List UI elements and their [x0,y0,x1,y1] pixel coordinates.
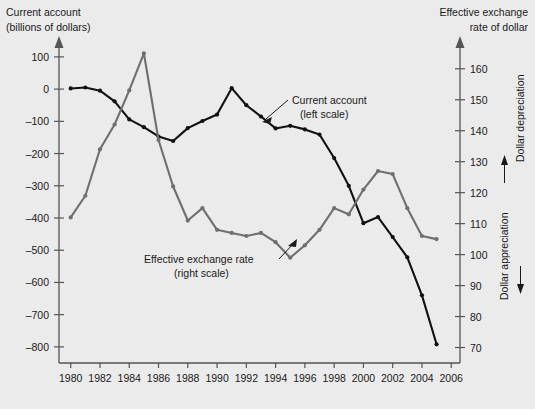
x-tick-label: 1992 [235,372,259,384]
dollar-appreciation-note: Dollar appreciation [498,155,510,300]
right-axis [456,36,465,363]
x-tick-label: 2002 [381,372,405,384]
x-tick-label: 1988 [176,372,200,384]
x-tick-label: 1980 [59,372,83,384]
data-point [391,235,395,239]
data-point [420,293,424,297]
data-point [361,187,365,191]
data-point [156,138,160,142]
left-axis [55,36,64,363]
data-point [361,221,365,225]
data-point [230,86,234,90]
x-tick-label: 1990 [205,372,229,384]
data-point [274,240,278,244]
data-point [376,215,380,219]
left-tick-label: –100 [26,115,50,127]
data-point [171,184,175,188]
data-point [113,99,117,103]
x-tick-label: 2006 [440,372,464,384]
left-axis-arrow [55,36,64,48]
right-axis-arrow [456,36,465,48]
right-tick-label: 130 [470,156,488,168]
data-point [317,132,321,136]
data-point [332,156,336,160]
right-axis-title-line1: Effective exchange [439,6,528,18]
data-point [98,89,102,93]
right-tick-label: 150 [470,94,488,106]
data-point [332,206,336,210]
current-account-annotation-line2: (left scale) [300,108,348,120]
data-point [98,147,102,151]
data-point [259,114,263,118]
left-tick-label: –600 [26,276,50,288]
data-point [215,228,219,232]
data-point [127,117,131,121]
data-point [215,112,219,116]
data-point [391,172,395,176]
data-point [200,119,204,123]
data-point [69,215,73,219]
left-tick-label: –400 [26,212,50,224]
left-axis-ticks: 1000–100–200–300–400–500–600–700–800 [26,51,64,353]
data-point [303,127,307,131]
data-point [244,103,248,107]
data-point [171,139,175,143]
data-point [303,243,307,247]
left-tick-label: 0 [43,83,49,95]
data-point [420,234,424,238]
data-point [317,228,321,232]
left-tick-label: 100 [31,51,49,63]
right-tick-label: 90 [470,280,482,292]
left-axis-title-line2: (billions of dollars) [6,21,91,33]
data-point [69,86,73,90]
data-point [244,234,248,238]
left-tick-label: –500 [26,244,50,256]
series-current-account [69,85,439,346]
plot-area [69,51,439,346]
left-axis-title-line1: Current account [6,6,81,18]
x-tick-label: 1986 [147,372,171,384]
x-tick-label: 1984 [118,372,142,384]
right-tick-label: 80 [470,311,482,323]
dollar-appreciation-label: Dollar appreciation [498,212,510,300]
data-point [434,237,438,241]
data-point [142,125,146,129]
right-axis-title-line2: rate of dollar [470,21,529,33]
series-exchange-rate [69,51,439,260]
data-point [347,212,351,216]
data-point [83,194,87,198]
data-point [259,231,263,235]
exchange-rate-annotation-line2: (right scale) [174,267,229,279]
data-point [83,85,87,89]
data-point [347,184,351,188]
dollar-depreciation-label: Dollar depreciation [514,74,526,162]
current-account-annotation-line1: Current account [292,94,367,106]
current-account-annotation: Current account (left scale) [262,94,367,124]
exchange-rate-annotation-line1: Effective exchange rate [144,253,254,265]
up-arrow-icon [501,155,508,165]
data-point [200,206,204,210]
x-tick-label: 2000 [352,372,376,384]
x-axis-ticks: 1980198219841986198819901992199419961998… [59,363,463,384]
data-point [142,51,146,55]
x-tick-label: 1996 [293,372,317,384]
right-tick-label: 140 [470,125,488,137]
right-tick-label: 70 [470,342,482,354]
data-point [113,122,117,126]
data-point [230,231,234,235]
left-tick-label: –300 [26,180,50,192]
data-point [186,218,190,222]
right-tick-label: 110 [470,218,487,230]
left-tick-label: –800 [26,341,50,353]
dollar-depreciation-note: Dollar depreciation [514,74,526,294]
x-tick-label: 1982 [88,372,112,384]
x-tick-label: 2004 [410,372,434,384]
x-tick-label: 1994 [264,372,288,384]
data-point [127,88,131,92]
left-tick-label: –200 [26,148,50,160]
data-point [288,256,292,260]
data-point [186,126,190,130]
right-tick-label: 100 [470,249,488,261]
data-point [405,255,409,259]
data-point [288,124,292,128]
